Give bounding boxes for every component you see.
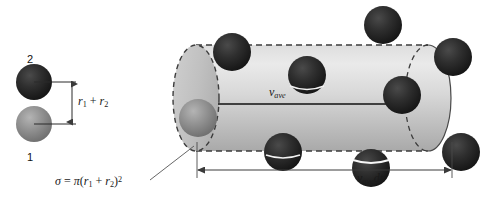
equals-sign: = [64, 174, 74, 188]
collision-cylinder-figure: 2 1 r1 + r2 σ = π(r1 + r2)2 vave vavedt [0, 0, 483, 201]
target-molecule-sphere [179, 99, 217, 137]
sigma-symbol: σ [55, 174, 61, 188]
gas-molecule [288, 56, 326, 94]
separation-sub-1: 1 [83, 100, 87, 109]
separation-dimension-label: r1 + r2 [78, 95, 108, 109]
gas-molecule [442, 133, 480, 171]
figure-canvas [0, 0, 483, 201]
length-subscript: ave [362, 177, 373, 186]
formula-plus: + [95, 174, 105, 188]
length-label: vavedt [357, 172, 383, 186]
gas-molecule [364, 6, 402, 44]
gas-molecule [383, 76, 421, 114]
velocity-subscript: ave [274, 91, 285, 100]
gas-molecule [434, 38, 472, 76]
velocity-label: vave [269, 86, 286, 100]
cross-section-formula-label: σ = π(r1 + r2)2 [55, 175, 122, 189]
gas-molecule [213, 33, 251, 71]
molecule-1-label: 1 [27, 152, 33, 163]
length-dt-symbol: dt [374, 171, 383, 185]
formula-sub-1: 1 [88, 180, 92, 189]
molecule-pair-group [16, 64, 76, 142]
formula-exponent: 2 [118, 175, 122, 184]
gas-molecule [264, 133, 302, 171]
separation-plus: + [90, 94, 100, 108]
separation-sub-2: 2 [104, 100, 108, 109]
cross-section-leader-line [150, 146, 194, 180]
molecule-2-label: 2 [27, 54, 33, 65]
